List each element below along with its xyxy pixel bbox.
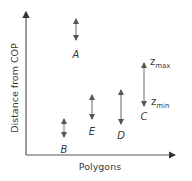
y-axis-label: Distance from COP <box>9 43 20 133</box>
polygon-a: A <box>72 19 80 60</box>
polygon-label: A <box>72 49 80 60</box>
polygon-label: E <box>89 126 96 137</box>
polygon-ranges: ABCDE <box>61 19 148 155</box>
z-max-annotation: zmax <box>150 56 171 70</box>
polygon-b: B <box>61 119 68 155</box>
x-axis-label: Polygons <box>79 161 121 172</box>
z-min-annotation: zmin <box>151 96 169 110</box>
polygon-c: C <box>141 63 148 122</box>
polygon-label: B <box>61 144 68 155</box>
polygon-label: D <box>117 130 125 141</box>
distance-diagram: Distance from COP Polygons ABCDE zmax zm… <box>0 0 192 181</box>
polygon-e: E <box>89 95 96 137</box>
polygon-d: D <box>117 90 125 141</box>
polygon-label: C <box>141 111 148 122</box>
